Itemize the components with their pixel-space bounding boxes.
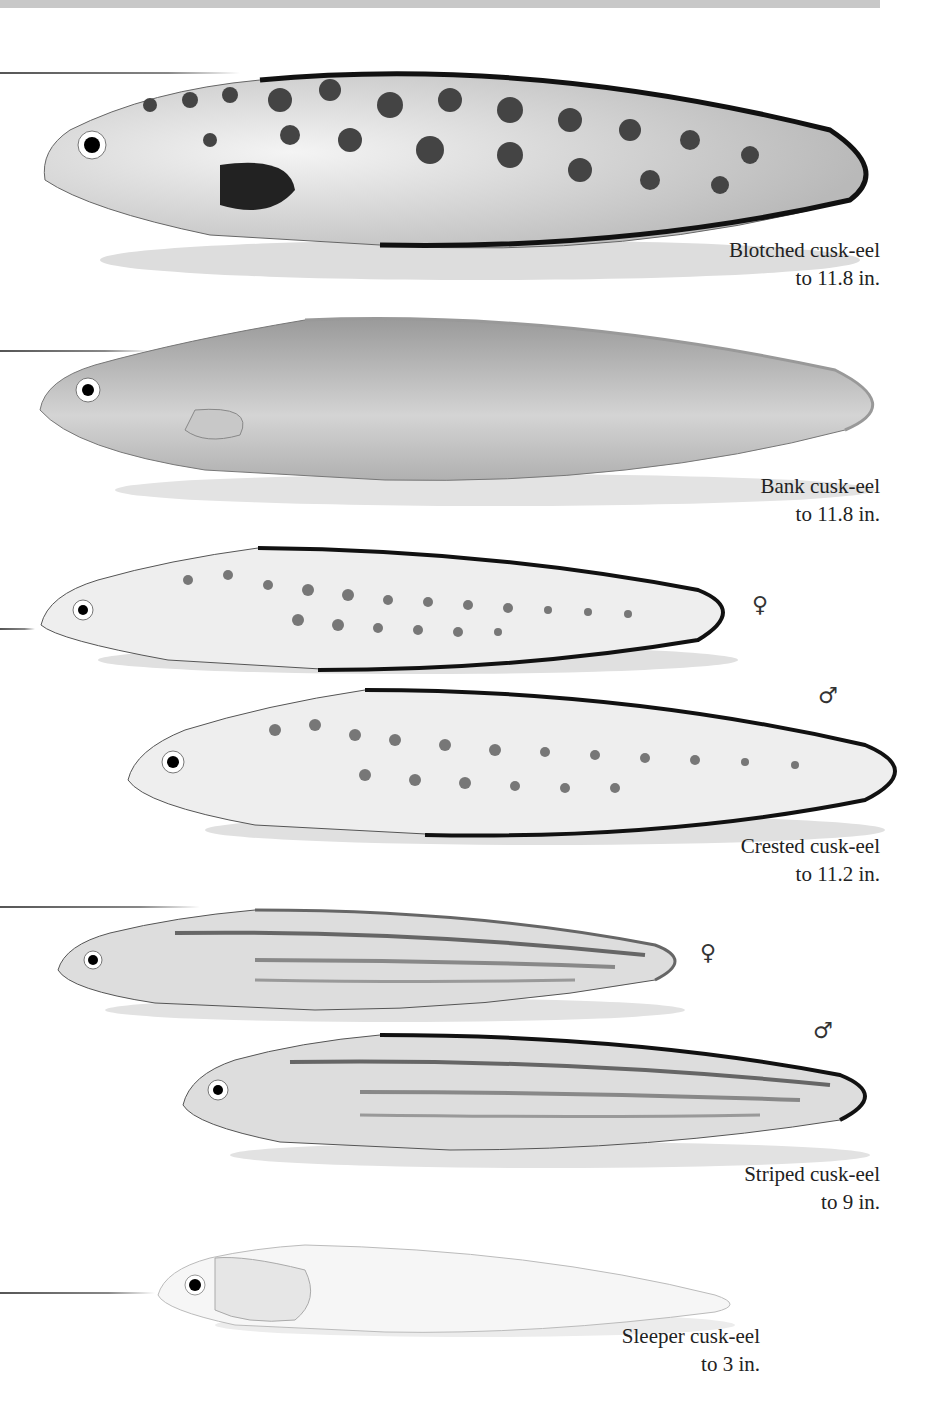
- species-name: Crested cusk-eel: [741, 832, 880, 860]
- species-size: to 11.2 in.: [741, 860, 880, 888]
- species-caption: Bank cusk-eel to 11.8 in.: [760, 472, 880, 528]
- species-caption: Sleeper cusk-eel to 3 in.: [622, 1322, 880, 1378]
- female-symbol: ♀: [752, 592, 768, 617]
- species-name: Sleeper cusk-eel: [622, 1322, 760, 1350]
- species-size: to 11.8 in.: [760, 500, 880, 528]
- striped-cusk-eel-male-illustration: [180, 1030, 880, 1170]
- leader-line: [0, 628, 35, 630]
- species-name: Bank cusk-eel: [760, 472, 880, 500]
- female-symbol: ♀: [700, 940, 716, 965]
- species-caption: Striped cusk-eel to 9 in.: [744, 1160, 880, 1216]
- species-caption: Blotched cusk-eel to 11.8 in.: [729, 236, 880, 292]
- leader-line: [0, 1292, 155, 1294]
- species-name: Striped cusk-eel: [744, 1160, 880, 1188]
- species-name: Blotched cusk-eel: [729, 236, 880, 264]
- species-size: to 9 in.: [744, 1188, 880, 1216]
- species-size: to 11.8 in.: [729, 264, 880, 292]
- striped-cusk-eel-female-illustration: [55, 905, 695, 1025]
- species-size: to 3 in.: [622, 1350, 760, 1378]
- page-top-band: [0, 0, 880, 8]
- species-caption: Crested cusk-eel to 11.2 in.: [741, 832, 880, 888]
- crested-cusk-eel-female-illustration: [38, 540, 758, 680]
- crested-cusk-eel-male-illustration: [125, 680, 915, 850]
